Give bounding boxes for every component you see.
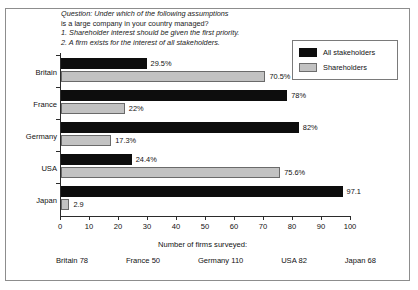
category-label-britain: Britain xyxy=(0,68,57,77)
x-axis-tick-label-0: 0 xyxy=(47,222,73,231)
x-axis-tick xyxy=(205,216,206,220)
bar-value-japan-all-stakeholders: 97.1 xyxy=(347,187,361,196)
footer-count-france: France 50 xyxy=(126,256,160,265)
category-label-france: France xyxy=(0,100,57,109)
footer-count-germany: Germany 110 xyxy=(198,256,243,265)
bar-row: 75.6% xyxy=(61,167,351,178)
y-axis-group-tick xyxy=(56,87,61,88)
footer-count-usa: USA 82 xyxy=(281,256,307,265)
bar-britain-all-stakeholders xyxy=(61,58,147,69)
bar-value-germany-shareholders: 17.3% xyxy=(115,136,136,145)
x-axis-tick-label-10: 10 xyxy=(76,222,102,231)
bar-france-all-stakeholders xyxy=(61,90,287,101)
y-axis-group-tick xyxy=(56,55,61,56)
x-axis-tick-label-20: 20 xyxy=(105,222,131,231)
bar-france-shareholders xyxy=(61,103,125,114)
x-axis-tick-label-50: 50 xyxy=(192,222,218,231)
footer-counts: Britain 78 France 50 Germany 110 USA 82 … xyxy=(56,256,376,265)
bar-usa-shareholders xyxy=(61,167,280,178)
bar-britain-shareholders xyxy=(61,71,265,82)
bar-value-britain-shareholders: 70.5% xyxy=(269,72,290,81)
bar-value-usa-all-stakeholders: 24.4% xyxy=(136,155,157,164)
y-axis-group-tick xyxy=(56,119,61,120)
bar-usa-all-stakeholders xyxy=(61,154,132,165)
footer-count-japan: Japan 68 xyxy=(345,256,376,265)
bar-value-britain-all-stakeholders: 29.5% xyxy=(151,59,172,68)
bar-row: 70.5% xyxy=(61,71,351,82)
category-label-usa: USA xyxy=(0,164,57,173)
footer-count-britain: Britain 78 xyxy=(56,256,88,265)
x-axis-tick xyxy=(147,216,148,220)
bar-germany-shareholders xyxy=(61,135,111,146)
chart-plot-area: Britain29.5%70.5%France78%22%Germany82%1… xyxy=(0,0,405,273)
x-axis-tick xyxy=(263,216,264,220)
x-axis-tick-label-70: 70 xyxy=(250,222,276,231)
x-axis-tick xyxy=(350,216,351,220)
bar-value-france-shareholders: 22% xyxy=(129,104,144,113)
x-axis-tick-label-60: 60 xyxy=(221,222,247,231)
bar-row: 17.3% xyxy=(61,135,351,146)
x-axis-tick xyxy=(176,216,177,220)
x-axis-tick-label-90: 90 xyxy=(308,222,334,231)
bar-value-usa-shareholders: 75.6% xyxy=(284,168,305,177)
x-axis-tick xyxy=(60,216,61,220)
x-axis-tick xyxy=(321,216,322,220)
category-label-germany: Germany xyxy=(0,132,57,141)
bar-row: 97.1 xyxy=(61,186,351,197)
bar-value-france-all-stakeholders: 78% xyxy=(291,91,306,100)
bar-japan-all-stakeholders xyxy=(61,186,343,197)
bar-row: 82% xyxy=(61,122,351,133)
bar-value-germany-all-stakeholders: 82% xyxy=(303,123,318,132)
x-axis-tick-label-30: 30 xyxy=(134,222,160,231)
y-axis-group-tick xyxy=(56,151,61,152)
bar-japan-shareholders xyxy=(61,199,69,210)
bar-row: 78% xyxy=(61,90,351,101)
category-label-japan: Japan xyxy=(0,196,57,205)
x-axis-tick xyxy=(89,216,90,220)
x-axis-tick-label-40: 40 xyxy=(163,222,189,231)
x-axis-tick xyxy=(118,216,119,220)
y-axis-group-tick xyxy=(56,183,61,184)
bar-germany-all-stakeholders xyxy=(61,122,299,133)
x-axis-tick-label-80: 80 xyxy=(279,222,305,231)
footer-title: Number of firms surveyed: xyxy=(0,240,405,249)
bar-row: 2.9 xyxy=(61,199,351,210)
x-axis-tick-label-100: 100 xyxy=(337,222,363,231)
x-axis-tick xyxy=(292,216,293,220)
bar-row: 22% xyxy=(61,103,351,114)
bar-row: 24.4% xyxy=(61,154,351,165)
x-axis-tick xyxy=(234,216,235,220)
bar-row: 29.5% xyxy=(61,58,351,69)
bar-value-japan-shareholders: 2.9 xyxy=(73,200,83,209)
